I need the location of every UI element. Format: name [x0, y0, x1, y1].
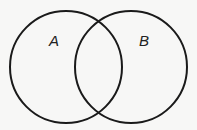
- set-a-circle: [10, 11, 122, 123]
- set-b-circle: [75, 11, 187, 123]
- set-b-label: B: [139, 32, 149, 49]
- set-a-label: A: [48, 32, 59, 49]
- venn-diagram: A B: [0, 0, 197, 130]
